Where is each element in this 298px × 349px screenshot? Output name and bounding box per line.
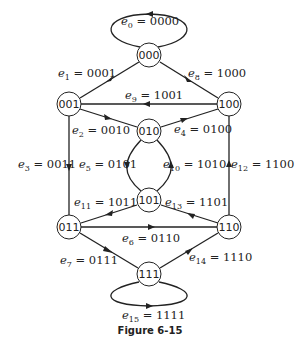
svg-text:000: 000 bbox=[139, 49, 160, 62]
figure-caption: Figure 6-15 bbox=[118, 325, 183, 336]
label-e3: e3 = 0011 bbox=[18, 157, 76, 173]
label-e15: e15 = 1111 bbox=[122, 308, 185, 324]
label-e9: e9 = 1001 bbox=[125, 88, 183, 104]
svg-text:100: 100 bbox=[219, 98, 240, 111]
node-011: 011 bbox=[57, 215, 81, 239]
state-diagram: 000 001 100 010 101 011 110 111 e0 = 000… bbox=[0, 0, 298, 349]
node-101: 101 bbox=[137, 188, 161, 212]
node-110: 110 bbox=[217, 215, 241, 239]
label-e13: e13 = 1101 bbox=[165, 195, 228, 211]
svg-text:001: 001 bbox=[59, 98, 80, 111]
node-001: 001 bbox=[57, 92, 81, 116]
node-100: 100 bbox=[217, 92, 241, 116]
arrow-icon bbox=[104, 114, 112, 120]
arrow-icon bbox=[187, 213, 195, 219]
edge-e6 bbox=[81, 224, 217, 230]
label-e10: e10 = 1010 bbox=[163, 157, 226, 173]
label-e1: e1 = 0001 bbox=[58, 66, 116, 82]
label-e6: e6 = 0110 bbox=[122, 231, 180, 247]
label-e5: e5 = 0101 bbox=[79, 157, 137, 173]
node-111: 111 bbox=[137, 262, 161, 286]
label-e8: e8 = 1000 bbox=[188, 66, 246, 82]
arrow-icon bbox=[148, 224, 155, 230]
label-e2: e2 = 0010 bbox=[72, 123, 130, 139]
svg-text:011: 011 bbox=[59, 221, 80, 234]
svg-text:010: 010 bbox=[139, 125, 160, 138]
label-e14: e14 = 1110 bbox=[189, 250, 252, 266]
node-010: 010 bbox=[137, 119, 161, 143]
label-e11: e11 = 1011 bbox=[74, 195, 137, 211]
svg-text:110: 110 bbox=[219, 221, 240, 234]
svg-text:101: 101 bbox=[139, 194, 160, 207]
label-e7: e7 = 0111 bbox=[60, 253, 118, 269]
arrow-icon bbox=[105, 210, 113, 216]
svg-text:111: 111 bbox=[139, 268, 160, 281]
label-e4: e4 = 0100 bbox=[174, 122, 232, 138]
node-000: 000 bbox=[137, 43, 161, 67]
label-e12: e12 = 1100 bbox=[231, 157, 294, 173]
